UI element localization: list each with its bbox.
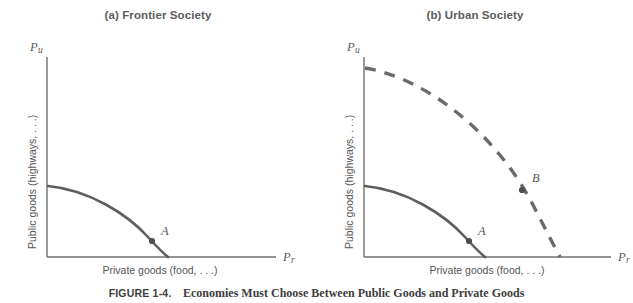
y-axis-cap-sub: u — [38, 45, 43, 55]
y-axis-cap: P — [29, 40, 38, 54]
panel-b-plot: A B P u P r Public goods (highways, . . … — [317, 0, 633, 285]
y-axis-label: Public goods (highways, . . .) — [26, 115, 38, 249]
ppf-curve-solid — [365, 186, 485, 257]
caption-label: FIGURE 1-4. — [109, 287, 172, 299]
point-a-dot — [149, 238, 155, 244]
x-axis-cap: P — [617, 250, 626, 264]
x-axis-cap-sub: r — [291, 255, 295, 265]
point-a-label: A — [477, 224, 486, 238]
figure-caption: FIGURE 1-4. Economies Must Choose Betwee… — [0, 286, 633, 301]
point-a-label: A — [160, 224, 169, 238]
x-axis-label: Private goods (food, . . .) — [103, 264, 218, 276]
ppf-curve-solid — [48, 186, 168, 257]
panel-a-plot: A P u P r Public goods (highways, . . .)… — [0, 0, 316, 285]
ppf-curve-dashed — [365, 68, 560, 257]
y-axis-cap-sub: u — [355, 45, 360, 55]
y-axis-label: Public goods (highways, . . .) — [343, 115, 355, 249]
point-b-dot — [519, 187, 525, 193]
x-axis-label: Private goods (food, . . .) — [430, 264, 545, 276]
y-axis-cap: P — [346, 40, 355, 54]
caption-text: Economies Must Choose Between Public Goo… — [183, 286, 524, 300]
figure-container: (a) Frontier Society A P u P r Public go… — [0, 0, 633, 303]
panel-frontier-society: (a) Frontier Society A P u P r Public go… — [0, 0, 316, 285]
x-axis-cap-sub: r — [626, 255, 630, 265]
x-axis-cap: P — [282, 250, 291, 264]
point-b-label: B — [532, 171, 540, 185]
panel-urban-society: (b) Urban Society A B P u P r Public goo — [317, 0, 633, 285]
point-a-dot — [466, 238, 472, 244]
